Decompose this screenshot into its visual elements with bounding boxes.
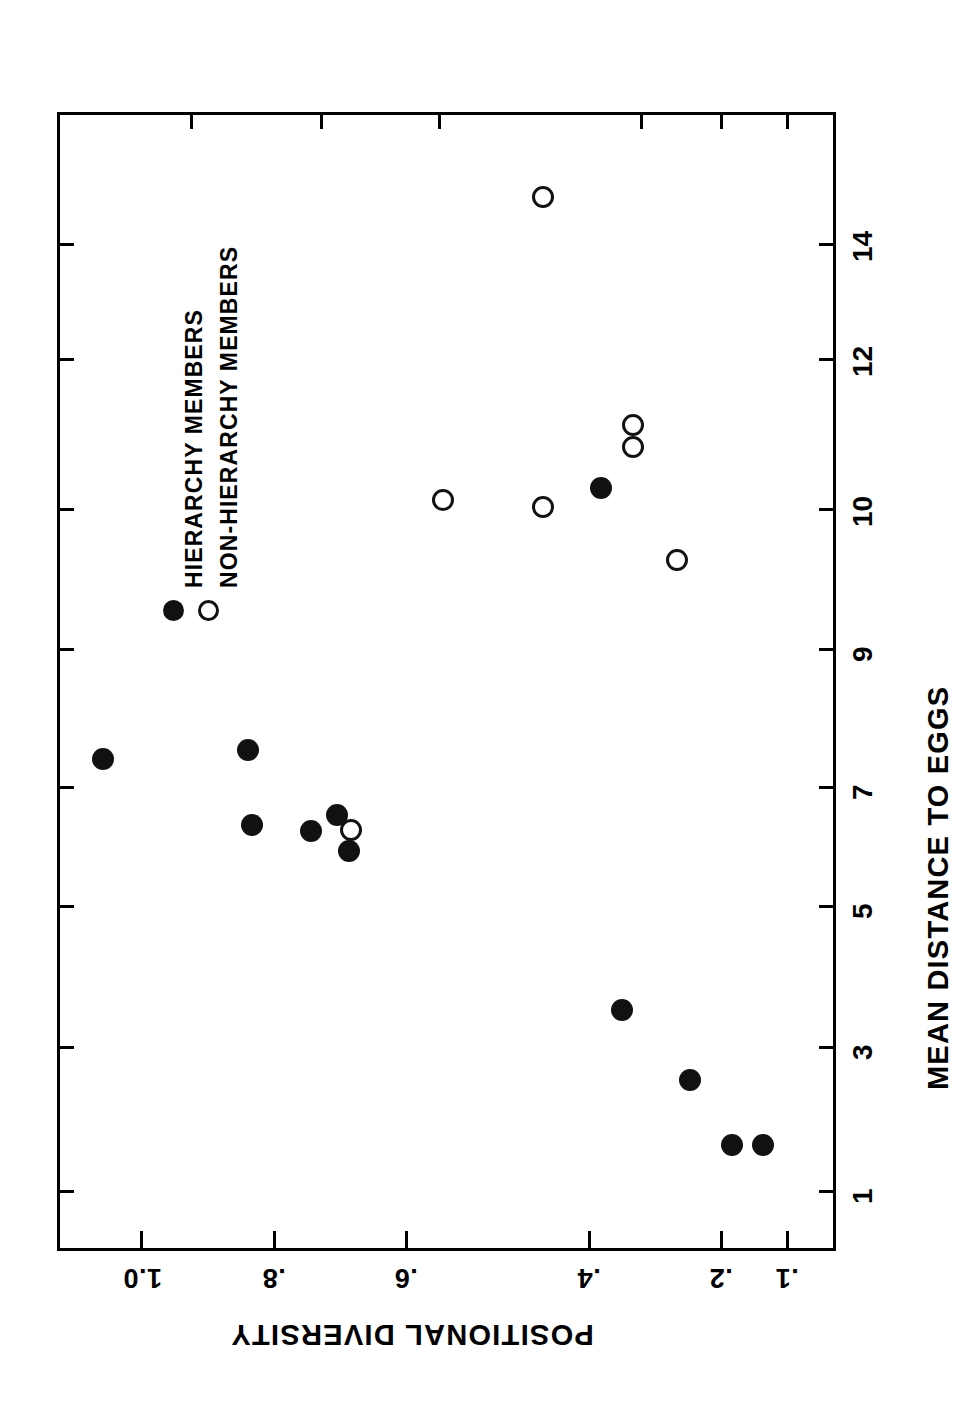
- x-axis-title: MEAN DISTANCE TO EGGS: [922, 686, 955, 1090]
- plot-frame: [57, 112, 836, 1251]
- axis-tick-distance: [819, 1190, 836, 1193]
- axis-tick-diversity: [405, 1231, 408, 1249]
- data-point-hierarchy: [679, 1069, 701, 1091]
- axis-tick-left: [57, 648, 74, 651]
- data-point-non-hierarchy: [666, 549, 688, 571]
- axis-tick-distance: [819, 905, 836, 908]
- data-point-hierarchy: [611, 999, 633, 1021]
- data-point-non-hierarchy: [432, 489, 454, 511]
- data-point-hierarchy: [237, 739, 259, 761]
- legend-label-hierarchy: HIERARCHY MEMBERS: [181, 309, 208, 588]
- data-point-hierarchy: [300, 820, 322, 842]
- axis-tick-distance: [819, 786, 836, 789]
- data-point-non-hierarchy: [532, 496, 554, 518]
- axis-tick-distance: [819, 508, 836, 511]
- axis-tick-left: [57, 243, 74, 246]
- axis-tick-top: [640, 112, 643, 129]
- legend-marker-non-hierarchy: [198, 600, 219, 621]
- axis-tick-diversity: [786, 1231, 789, 1249]
- xtick-label-1: 1: [847, 1188, 879, 1204]
- xtick-label-14: 14: [847, 231, 879, 262]
- legend-label-non-hierarchy: NON-HIERARCHY MEMBERS: [216, 246, 243, 588]
- axis-tick-left: [57, 905, 74, 908]
- ytick-label-0-2: .2: [705, 1262, 737, 1293]
- axis-tick-left: [57, 508, 74, 511]
- ytick-label-0-8: .8: [258, 1262, 290, 1293]
- axis-tick-top: [190, 112, 193, 129]
- axis-tick-left: [57, 358, 74, 361]
- data-point-hierarchy: [338, 840, 360, 862]
- axis-tick-left: [57, 1046, 74, 1049]
- y-axis-title: POSITIONAL DIVERSITY: [230, 1318, 594, 1351]
- xtick-label-3: 3: [847, 1044, 879, 1060]
- data-point-hierarchy: [752, 1134, 774, 1156]
- axis-tick-top: [320, 112, 323, 129]
- data-point-non-hierarchy: [340, 819, 362, 841]
- axis-tick-top: [720, 112, 723, 129]
- axis-tick-diversity: [588, 1231, 591, 1249]
- data-point-non-hierarchy: [622, 414, 644, 436]
- xtick-label-12: 12: [847, 346, 879, 377]
- data-point-hierarchy: [241, 814, 263, 836]
- ytick-label-0-6: .6: [390, 1262, 422, 1293]
- data-point-non-hierarchy: [622, 436, 644, 458]
- data-point-hierarchy: [92, 748, 114, 770]
- ytick-label-1-0: 1.0: [124, 1262, 162, 1293]
- axis-tick-diversity: [140, 1231, 143, 1249]
- xtick-label-9: 9: [847, 646, 879, 662]
- axis-tick-diversity: [273, 1231, 276, 1249]
- ytick-label-0-1: .1: [771, 1262, 803, 1293]
- legend-marker-hierarchy: [163, 600, 184, 621]
- xtick-label-10: 10: [847, 496, 879, 527]
- axis-tick-distance: [819, 1046, 836, 1049]
- axis-tick-distance: [819, 358, 836, 361]
- axis-tick-top: [786, 112, 789, 129]
- data-point-hierarchy: [590, 477, 612, 499]
- axis-tick-distance: [819, 243, 836, 246]
- axis-tick-top: [438, 112, 441, 129]
- ytick-label-0-4: .4: [573, 1262, 605, 1293]
- xtick-label-5: 5: [847, 903, 879, 919]
- axis-tick-distance: [819, 648, 836, 651]
- axis-tick-diversity: [720, 1231, 723, 1249]
- data-point-non-hierarchy: [532, 186, 554, 208]
- axis-tick-left: [57, 786, 74, 789]
- data-point-hierarchy: [721, 1134, 743, 1156]
- scatter-plot-figure: HIERARCHY MEMBERS NON-HIERARCHY MEMBERS …: [0, 0, 965, 1402]
- xtick-label-7: 7: [847, 784, 879, 800]
- axis-tick-left: [57, 1190, 74, 1193]
